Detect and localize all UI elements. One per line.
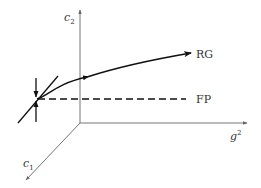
g2-axis-label: g2 [230, 129, 242, 143]
rg-flow-diagram: c2 g2 c1 FP RG [0, 0, 261, 188]
c2-axis-label: c2 [64, 11, 75, 26]
c1-axis [26, 123, 80, 180]
rg-label: RG [196, 48, 213, 61]
rg-curve-upper [87, 53, 191, 77]
c1-axis-label: c1 [23, 157, 34, 172]
axes [26, 10, 247, 180]
fp-label: FP [196, 93, 212, 106]
